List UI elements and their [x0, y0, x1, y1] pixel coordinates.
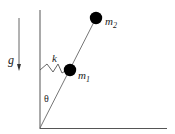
pendulum-diagram: g k θ m1 m2	[0, 0, 175, 134]
mass-2-subscript: 2	[113, 21, 117, 30]
spring	[40, 64, 67, 73]
mass-1-label: m1	[78, 69, 90, 84]
angle-label: θ	[44, 93, 49, 104]
mass-2-label: m2	[105, 15, 117, 30]
gravity-arrow-icon	[17, 64, 21, 71]
gravity-label: g	[8, 53, 14, 67]
mass-1-symbol: m	[78, 69, 86, 81]
mass-2-ball	[90, 12, 102, 24]
spring-constant-label: k	[52, 52, 58, 64]
mass-1-ball	[64, 64, 76, 76]
mass-2-symbol: m	[105, 15, 113, 27]
mass-1-subscript: 1	[86, 75, 90, 84]
